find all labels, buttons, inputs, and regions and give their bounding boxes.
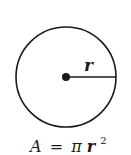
- formula-eq: =: [50, 137, 63, 155]
- formula-pi: π: [70, 137, 82, 155]
- center-dot: [62, 73, 70, 81]
- formula: A = π r 2: [28, 135, 107, 155]
- formula-lhs: A: [28, 137, 42, 155]
- circle-diagram: r A = π r 2: [0, 0, 131, 155]
- formula-var: r: [87, 137, 97, 155]
- radius-label: r: [84, 55, 94, 75]
- formula-exp: 2: [100, 135, 106, 146]
